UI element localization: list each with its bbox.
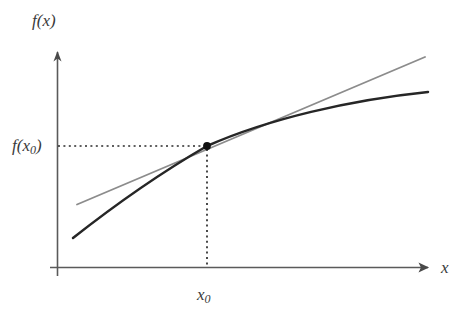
tangency-point-marker [203,142,211,150]
y-tick-function-part: f(x [12,136,30,155]
plot-canvas [0,0,474,316]
y-tick-closing-paren: ) [36,136,42,155]
y-tick-subscript: 0 [30,143,36,157]
tangent-line [77,57,425,205]
x-tick-variable: x [197,285,205,304]
y-axis-label: f(x) [32,12,56,29]
x-axis-label: x [441,259,449,276]
x-tick-subscript: 0 [205,292,211,306]
function-curve [73,92,428,238]
x-axis-tick-label: x0 [197,286,211,303]
y-axis-tick-label: f(x0) [12,137,42,154]
tangent-line-figure: f(x) x f(x0) x0 [0,0,474,316]
